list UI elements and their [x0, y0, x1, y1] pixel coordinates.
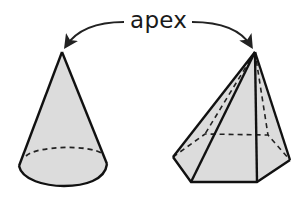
- pyramid-shape: [173, 52, 290, 182]
- arrow-to-pyramid-apex: [192, 22, 251, 46]
- arrow-to-cone-apex: [66, 22, 124, 46]
- cone-shape: [19, 52, 107, 186]
- diagram: apex: [0, 0, 306, 199]
- apex-label: apex: [130, 6, 186, 34]
